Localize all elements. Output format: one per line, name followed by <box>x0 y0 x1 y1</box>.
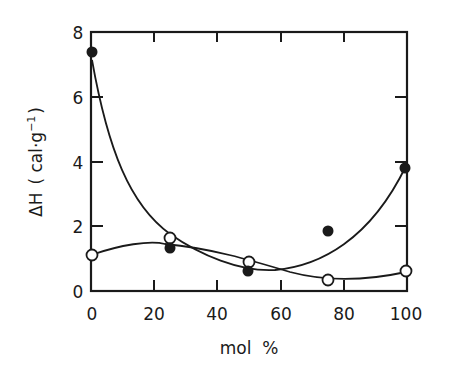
y-title-main: ΔH <box>26 193 46 217</box>
x-axis-title: mol % <box>220 338 279 358</box>
y-tick-8: 8 <box>73 23 84 43</box>
y-tick-0: 0 <box>73 282 84 302</box>
x-tick-60: 60 <box>270 304 292 324</box>
x-tick-0: 0 <box>87 304 98 324</box>
y-tick-4: 4 <box>73 153 84 173</box>
y-tick-6: 6 <box>73 88 84 108</box>
open-point <box>401 266 412 277</box>
filled-point <box>243 266 254 277</box>
x-tick-80: 80 <box>333 304 355 324</box>
filled-point <box>87 47 98 58</box>
x-tick-20: 20 <box>143 304 165 324</box>
open-point <box>165 233 176 244</box>
open-point <box>87 250 98 261</box>
plot-frame <box>91 32 407 291</box>
filled-point <box>400 163 411 174</box>
filled-point <box>323 226 334 237</box>
open-point <box>323 275 334 286</box>
x-tick-100: 100 <box>390 304 422 324</box>
y-title-exponent: −1 <box>25 116 38 132</box>
y-title-close: ) <box>26 107 46 114</box>
filled-point <box>165 243 176 254</box>
x-tick-40: 40 <box>206 304 228 324</box>
filled-series-markers <box>87 47 411 277</box>
tick-marks <box>91 32 407 291</box>
filled-series-curve <box>92 60 406 270</box>
y-title-unit: ( cal·g <box>26 132 46 185</box>
svg-text:ΔH( cal·g−1): ΔH( cal·g−1) <box>25 107 46 217</box>
y-tick-2: 2 <box>73 217 84 237</box>
chart: 0 2 4 6 8 0 20 40 60 80 100 mol % ΔH( ca… <box>0 0 450 371</box>
y-axis-title: ΔH( cal·g−1) <box>25 107 46 217</box>
